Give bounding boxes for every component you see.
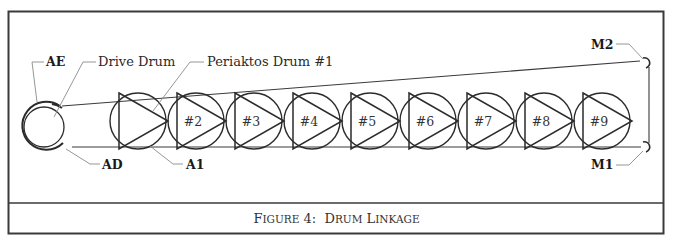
periaktos-drum-7: #7 [458,93,516,149]
caption-fragment: D [324,211,334,226]
periaktos-drum-8: #8 [516,93,574,149]
periaktos-drum-4: #4 [284,93,342,149]
drum-linkage-figure: #2#3#4#5#6#7#8#9 AE Drive Drum Periaktos… [0,0,673,242]
caption-fragment: INKAGE [375,213,419,225]
periaktos-drum-3: #3 [226,93,284,149]
drum-number-label: #9 [590,114,608,129]
belt-lines [62,61,649,147]
periaktos-drum-9: #9 [574,93,632,149]
periaktos-drum-label: Periaktos Drum #1 [207,54,333,69]
ad-leader [66,149,100,164]
a1-label: A1 [185,157,204,172]
caption-fragment: F [253,211,262,226]
caption-fragment: IGURE [262,213,299,225]
drum-number-label: #7 [474,114,492,129]
drum-number-label: #4 [300,114,318,129]
periaktos-drum-1 [110,93,168,149]
drum-number-label: #8 [532,114,550,129]
drive-drum-label: Drive Drum [98,54,175,69]
m1-hook-icon [643,142,650,152]
figure-caption: FIGURE 4: DRUM LINKAGE [253,211,419,226]
drum-number-label: #6 [416,114,434,129]
caption-fragment: RUM [335,213,363,225]
caption-fragment: 4: [299,211,324,226]
m2-label: M2 [591,37,614,52]
ad-label: AD [101,157,123,172]
drum-number-label: #5 [358,114,376,129]
periaktos-drum-2: #2 [168,93,226,149]
periaktos-drum-5: #5 [342,93,400,149]
ae-leader [32,62,44,102]
drum-number-label: #3 [242,114,260,129]
m2-leader [616,44,643,59]
m1-leader [616,151,643,165]
figure-frame [8,12,664,234]
drive-drum-leader [54,62,96,117]
periaktos-drums: #2#3#4#5#6#7#8#9 [110,93,632,149]
m2-hook-icon [643,58,650,68]
m1-label: M1 [591,157,614,172]
ae-label: AE [45,54,65,69]
caption-fragment: L [367,211,376,226]
drum-number-label: #2 [184,114,202,129]
periaktos-drum-6: #6 [400,93,458,149]
